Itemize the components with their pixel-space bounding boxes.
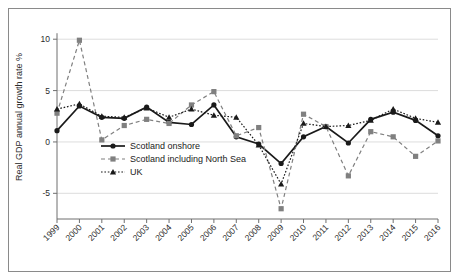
data-point-1-7	[211, 89, 216, 94]
data-point-1-4	[144, 117, 149, 122]
data-point-1-2	[99, 137, 104, 142]
data-point-2-10	[278, 181, 284, 187]
y-tick-label-10: 10	[41, 34, 51, 44]
legend-label-1: Scotland including North Sea	[130, 154, 246, 164]
data-point-2-0	[54, 106, 60, 112]
data-point-1-5	[166, 121, 171, 126]
data-point-1-17	[435, 138, 440, 143]
chart-figure: -50510Real GDP annual growth rate %19992…	[0, 0, 459, 280]
data-point-2-5	[166, 114, 172, 120]
x-tick-label-2010: 2010	[287, 222, 308, 243]
data-point-0-13	[346, 140, 351, 145]
data-point-1-9	[256, 125, 261, 130]
data-point-0-11	[301, 134, 306, 139]
x-tick-label-2014: 2014	[377, 222, 398, 243]
data-point-1-16	[413, 154, 418, 159]
line-chart-plot: -50510Real GDP annual growth rate %19992…	[9, 9, 450, 271]
x-tick-label-2000: 2000	[63, 222, 84, 243]
x-tick-label-2007: 2007	[220, 222, 241, 243]
data-point-1-11	[301, 112, 306, 117]
x-tick-label-2016: 2016	[422, 222, 443, 243]
legend-marker-square	[110, 156, 115, 161]
data-point-1-8	[234, 133, 239, 138]
y-tick-label-5: 5	[45, 86, 50, 96]
data-point-2-15	[390, 106, 396, 112]
legend-marker-circle	[110, 143, 115, 148]
data-point-2-17	[435, 119, 441, 125]
data-point-1-13	[346, 173, 351, 178]
data-point-1-1	[77, 38, 82, 43]
series-line-1	[57, 40, 438, 208]
legend-label-0: Scotland onshore	[130, 141, 200, 151]
x-tick-label-2002: 2002	[108, 222, 129, 243]
x-tick-label-2006: 2006	[198, 222, 219, 243]
data-point-0-6	[189, 122, 194, 127]
x-tick-label-2005: 2005	[175, 222, 196, 243]
x-tick-label-2001: 2001	[86, 222, 107, 243]
x-tick-label-2011: 2011	[310, 222, 330, 242]
x-tick-label-2008: 2008	[243, 222, 264, 243]
x-tick-label-2004: 2004	[153, 222, 174, 243]
data-point-0-10	[279, 161, 284, 166]
data-point-0-7	[211, 102, 216, 107]
data-point-2-1	[76, 101, 82, 107]
x-tick-label-1999: 1999	[41, 222, 62, 243]
data-point-1-10	[279, 206, 284, 211]
chart-frame: -50510Real GDP annual growth rate %19992…	[8, 8, 451, 272]
data-point-0-0	[54, 128, 59, 133]
y-axis-title: Real GDP annual growth rate %	[14, 53, 24, 181]
data-point-0-17	[435, 133, 440, 138]
data-point-1-14	[368, 129, 373, 134]
x-tick-label-2003: 2003	[131, 222, 152, 243]
x-tick-label-2015: 2015	[400, 222, 421, 243]
legend-label-2: UK	[130, 167, 143, 177]
y-tick-label-0: 0	[45, 137, 50, 147]
data-point-1-15	[391, 134, 396, 139]
x-tick-label-2012: 2012	[332, 222, 353, 243]
data-point-1-3	[122, 123, 127, 128]
data-point-2-8	[233, 114, 239, 120]
y-tick-label--5: -5	[42, 188, 50, 198]
x-tick-label-2013: 2013	[355, 222, 376, 243]
x-tick-label-2009: 2009	[265, 222, 286, 243]
